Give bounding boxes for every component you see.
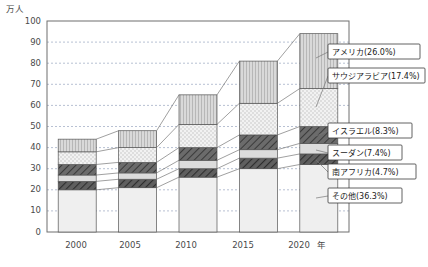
bar-segment-saudi-arabia-2015: [239, 103, 277, 135]
legend-label-sudan: スーダン(7.4%): [332, 148, 391, 158]
bar-segment-america-2000: [58, 139, 96, 152]
x-tick-2010: 2010: [175, 240, 197, 250]
stack-connector-sudan-2000: [96, 173, 118, 175]
y-tick-20: 20: [30, 184, 41, 194]
x-tick-2015: 2015: [232, 240, 254, 250]
bar-2000: [58, 139, 96, 232]
stack-connector-saudi-arabia-2015: [277, 89, 299, 104]
stack-connector-america-2005: [157, 95, 179, 131]
y-tick-90: 90: [30, 37, 41, 47]
stack-connector-other-2005: [157, 177, 179, 188]
bar-2010: [179, 95, 217, 232]
legend-label-israel: イスラエル(8.3%): [332, 127, 399, 136]
x-axis-name: 年: [317, 240, 326, 250]
legend-label-america: アメリカ(26.0%): [332, 48, 396, 57]
stack-connector-sudan-2005: [157, 160, 179, 173]
bar-segment-other-2010: [179, 177, 217, 232]
x-axis-tick-labels: 2000 2005 2010 2015 2020 年: [65, 240, 326, 250]
bar-segment-america-2005: [119, 131, 157, 148]
stack-connector-south-africa-2010: [217, 158, 239, 169]
stack-connector-america-2015: [277, 34, 299, 61]
bar-segment-america-2015: [239, 61, 277, 103]
y-tick-50: 50: [30, 121, 41, 131]
y-tick-60: 60: [30, 100, 41, 110]
bar-segment-other-2000: [58, 190, 96, 232]
legend-item-israel[interactable]: イスラエル(8.3%): [328, 123, 412, 138]
x-tick-2000: 2000: [65, 240, 87, 250]
bar-segment-israel-2005: [119, 162, 157, 173]
y-axis-unit-label: 万人: [6, 4, 24, 14]
stack-connector-israel-2015: [277, 127, 299, 135]
legend-label-other: その他(36.3%): [332, 191, 388, 201]
stack-connector-israel-2000: [96, 162, 118, 164]
stack-connector-saudi-arabia-2005: [157, 124, 179, 147]
y-tick-100: 100: [25, 16, 41, 26]
bar-segment-south-africa-2000: [58, 181, 96, 189]
stack-connector-saudi-arabia-2000: [96, 148, 118, 152]
legend-label-southafrica: 南アフリカ(4.7%): [332, 167, 399, 177]
chart-container: 万人 100 90 80 70 60 50 40 30 20 10 0: [0, 0, 428, 267]
x-tick-2020: 2020: [288, 240, 310, 250]
bar-segment-sudan-2005: [119, 173, 157, 179]
stack-connector-south-africa-2000: [96, 179, 118, 181]
y-tick-30: 30: [30, 163, 41, 173]
legend: アメリカ(26.0%) サウジアラビア(17.4%) イスラエル(8.3%) ス…: [328, 44, 425, 203]
bar-segment-sudan-2015: [239, 150, 277, 158]
bar-segment-israel-2000: [58, 164, 96, 175]
stack-connector-other-2015: [277, 164, 299, 168]
bar-segment-other-2015: [239, 169, 277, 232]
bar-segment-south-africa-2015: [239, 158, 277, 169]
bar-segment-sudan-2010: [179, 160, 217, 168]
legend-item-other[interactable]: その他(36.3%): [328, 188, 402, 203]
stack-connector-america-2000: [96, 131, 118, 139]
stack-connector-south-africa-2015: [277, 154, 299, 158]
bar-segment-other-2005: [119, 188, 157, 232]
bar-segment-america-2010: [179, 95, 217, 125]
stack-connector-america-2010: [217, 61, 239, 95]
y-tick-10: 10: [30, 205, 41, 215]
stack-connector-sudan-2010: [217, 150, 239, 161]
bar-segment-sudan-2000: [58, 175, 96, 181]
bar-2015: [239, 61, 277, 232]
legend-item-sudan[interactable]: スーダン(7.4%): [328, 145, 402, 160]
bar-segment-south-africa-2005: [119, 179, 157, 187]
stack-connector-israel-2005: [157, 148, 179, 163]
bar-segment-saudi-arabia-2000: [58, 152, 96, 165]
y-tick-0: 0: [36, 227, 41, 237]
bar-segment-saudi-arabia-2005: [119, 148, 157, 163]
legend-item-southafrica[interactable]: 南アフリカ(4.7%): [328, 164, 416, 179]
y-tick-70: 70: [30, 79, 41, 89]
x-tick-2005: 2005: [119, 240, 141, 250]
legend-item-saudi[interactable]: サウジアラビア(17.4%): [328, 68, 425, 83]
legend-item-america[interactable]: アメリカ(26.0%): [328, 44, 420, 59]
stack-connector-israel-2010: [217, 135, 239, 148]
bar-segment-israel-2015: [239, 135, 277, 150]
y-tick-80: 80: [30, 58, 41, 68]
bar-segment-south-africa-2010: [179, 169, 217, 177]
bar-segment-saudi-arabia-2010: [179, 124, 217, 147]
stack-connector-south-africa-2005: [157, 169, 179, 180]
stack-connector-other-2010: [217, 169, 239, 177]
stacked-bar-chart: 万人 100 90 80 70 60 50 40 30 20 10 0: [0, 0, 428, 267]
bar-segment-israel-2010: [179, 148, 217, 161]
y-tick-40: 40: [30, 142, 41, 152]
legend-label-saudi: サウジアラビア(17.4%): [332, 72, 420, 81]
bar-2005: [119, 131, 157, 232]
y-axis-tick-labels: 100 90 80 70 60 50 40 30 20 10 0: [25, 16, 41, 237]
stack-connector-saudi-arabia-2010: [217, 103, 239, 124]
stack-connector-sudan-2015: [277, 143, 299, 149]
bar-segment-saudi-arabia-2020: [300, 89, 338, 127]
